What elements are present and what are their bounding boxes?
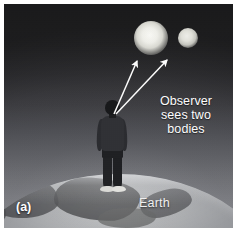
figure-panel-a: Observer sees two bodies Earth (a)	[0, 0, 237, 231]
image-grain-overlay	[4, 4, 233, 228]
illustration-scene: Observer sees two bodies Earth (a)	[4, 4, 233, 228]
